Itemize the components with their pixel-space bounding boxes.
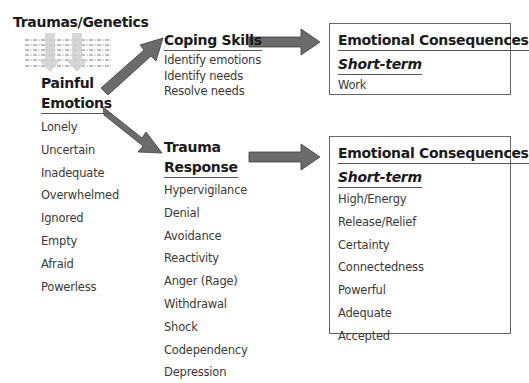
list-item: Avoidance [164,225,248,248]
list-item: Powerful [338,279,510,302]
consequences-list: High/Energy Release/Relief Certainty Con… [338,188,510,348]
list-item: Lonely [41,116,119,139]
list-item: Anger (Rage) [164,270,248,293]
list-item: Overwhelmed [41,184,119,207]
consequences-list: Work [338,76,510,94]
list-item: Denial [164,202,248,225]
emotional-consequences-box-bottom: Emotional Consequences Short-term High/E… [329,136,511,334]
coping-skills-list: Identify emotions Identify needs Resolve… [164,53,262,100]
list-item: Accepted [338,325,510,348]
trauma-response-heading-line2: Response [164,159,238,178]
list-item: Identify needs [164,69,262,85]
list-item: Ignored [41,207,119,230]
trauma-response-list: Hypervigilance Denial Avoidance Reactivi… [164,179,248,383]
list-item: Powerless [41,276,119,299]
painful-emotions-heading-line2: Emotions [41,95,112,114]
list-item: Release/Relief [338,211,510,234]
list-item: Identify emotions [164,53,262,69]
trauma-response-node: Trauma Response Hypervigilance Denial Av… [164,138,248,383]
list-item: Certainty [338,234,510,257]
list-item: Resolve needs [164,84,262,100]
consequences-heading: Emotional Consequences [338,145,529,164]
consequences-heading: Emotional Consequences [338,32,529,51]
list-item: Shock [164,316,248,339]
list-item: High/Energy [338,188,510,211]
list-item: Adequate [338,302,510,325]
short-term-subheading: Short-term [338,169,422,188]
traumas-genetics-title: Traumas/Genetics [13,14,149,30]
painful-emotions-heading-line1: Painful [41,74,119,93]
list-item: Depression [164,361,248,383]
list-item: Work [338,76,510,94]
short-term-subheading: Short-term [338,56,422,75]
coping-skills-heading: Coping Skills [164,32,262,51]
list-item: Inadequate [41,162,119,185]
list-item: Connectedness [338,256,510,279]
coping-skills-node: Coping Skills Identify emotions Identify… [164,30,262,100]
list-item: Empty [41,230,119,253]
list-item: Afraid [41,253,119,276]
painful-emotions-node: Painful Emotions Lonely Uncertain Inadeq… [41,74,119,298]
painful-emotions-list: Lonely Uncertain Inadequate Overwhelmed … [41,116,119,298]
arrow-to-consequences-bottom-icon [249,144,320,170]
emotional-consequences-box-top: Emotional Consequences Short-term Work [329,23,511,95]
list-item: Withdrawal [164,293,248,316]
list-item: Uncertain [41,139,119,162]
list-item: Hypervigilance [164,179,248,202]
list-item: Reactivity [164,247,248,270]
list-item: Codependency [164,339,248,362]
trauma-response-heading-line1: Trauma [164,138,248,157]
